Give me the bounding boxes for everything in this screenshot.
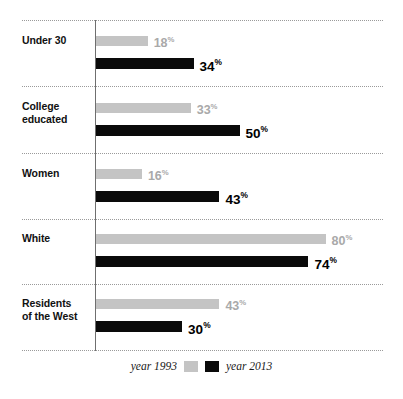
legend-swatch-1993	[184, 361, 198, 372]
percent-symbol: %	[168, 35, 175, 44]
category-label: White	[22, 232, 92, 245]
value-label-2013: 34%	[200, 58, 222, 73]
bar-group-women: Women 16% 43%	[0, 153, 403, 219]
percent-symbol: %	[261, 124, 268, 134]
value-number: 33	[197, 103, 211, 117]
percent-symbol: %	[211, 102, 218, 111]
category-label-line1: College	[22, 100, 92, 113]
percent-symbol: %	[203, 320, 210, 330]
value-number: 74	[314, 257, 329, 272]
category-label-line2: of the West	[22, 310, 92, 323]
bar-2013	[96, 125, 240, 136]
bar-2013	[96, 58, 194, 69]
value-label-1993: 80%	[332, 234, 353, 248]
percent-symbol: %	[239, 298, 246, 307]
bar-group-college-educated: College educated 33% 50%	[0, 86, 403, 153]
bar-chart: Under 30 18% 34% College educated 33% 50…	[0, 0, 403, 399]
category-label-line1: White	[22, 232, 92, 245]
gridline-bottom	[22, 350, 383, 351]
bar-2013	[96, 321, 182, 332]
value-label-2013: 30%	[188, 321, 210, 336]
category-label-line1: Under 30	[22, 34, 92, 47]
value-label-2013: 50%	[246, 125, 268, 140]
bar-1993	[96, 169, 142, 179]
value-number: 30	[188, 322, 203, 337]
legend-label-2013: year 2013	[226, 360, 272, 372]
value-number: 16	[148, 169, 162, 183]
category-label: College educated	[22, 100, 92, 125]
bar-1993	[96, 103, 191, 113]
bar-group-under-30: Under 30 18% 34%	[0, 20, 403, 86]
value-label-1993: 43%	[225, 299, 246, 313]
percent-symbol: %	[329, 255, 336, 265]
value-label-2013: 43%	[225, 191, 247, 206]
value-number: 18	[154, 36, 168, 50]
legend-label-1993: year 1993	[131, 360, 177, 372]
category-label: Residents of the West	[22, 297, 92, 322]
category-label: Women	[22, 167, 92, 180]
value-number: 43	[225, 192, 240, 207]
bar-2013	[96, 256, 308, 267]
bar-1993	[96, 299, 219, 309]
category-label: Under 30	[22, 34, 92, 47]
category-label-line2: educated	[22, 113, 92, 126]
percent-symbol: %	[240, 190, 247, 200]
value-label-2013: 74%	[314, 256, 336, 271]
legend-swatch-2013	[205, 361, 219, 372]
bar-group-white: White 80% 74%	[0, 219, 403, 284]
bar-group-residents-of-the-west: Residents of the West 43% 30%	[0, 284, 403, 350]
percent-symbol: %	[346, 233, 353, 242]
bar-2013	[96, 191, 219, 202]
value-number: 43	[225, 299, 239, 313]
percent-symbol: %	[215, 57, 222, 67]
value-number: 50	[246, 126, 261, 141]
bar-1993	[96, 234, 326, 244]
percent-symbol: %	[162, 168, 169, 177]
category-label-line1: Women	[22, 167, 92, 180]
value-label-1993: 18%	[154, 36, 175, 50]
value-label-1993: 16%	[148, 169, 169, 183]
value-number: 80	[332, 234, 346, 248]
chart-legend: year 1993 year 2013	[0, 360, 403, 372]
bar-1993	[96, 36, 148, 46]
value-label-1993: 33%	[197, 103, 218, 117]
value-number: 34	[200, 59, 215, 74]
category-label-line1: Residents	[22, 297, 92, 310]
